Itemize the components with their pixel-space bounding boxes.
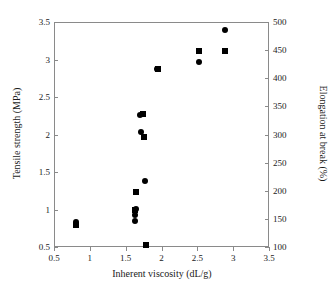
bottom-tick-label: 2 xyxy=(159,254,164,263)
right-tick-label: 300 xyxy=(273,130,303,139)
left-tick-mark xyxy=(54,60,58,61)
bottom-tick-label: 3.5 xyxy=(263,254,274,263)
right-tick-mark xyxy=(265,78,269,79)
left-tick-label: 1.5 xyxy=(14,168,50,177)
bottom-tick-mark xyxy=(233,247,234,251)
right-tick-label: 500 xyxy=(273,18,303,27)
right-tick-mark xyxy=(265,135,269,136)
left-tick-label: 3 xyxy=(14,55,50,64)
x-axis-label: Inherent viscosity (dL/g) xyxy=(0,268,324,279)
left-tick-mark xyxy=(54,210,58,211)
bottom-tick-mark xyxy=(90,247,91,251)
bottom-tick-label: 3 xyxy=(231,254,236,263)
right-tick-label: 100 xyxy=(273,243,303,252)
right-tick-label: 150 xyxy=(273,214,303,223)
right-tick-label: 200 xyxy=(273,186,303,195)
bottom-tick-mark xyxy=(197,247,198,251)
left-tick-label: 2 xyxy=(14,130,50,139)
plot-area-frame xyxy=(54,22,269,247)
right-tick-mark xyxy=(265,106,269,107)
left-tick-mark xyxy=(54,97,58,98)
right-tick-label: 250 xyxy=(273,158,303,167)
left-tick-label: 3.5 xyxy=(14,18,50,27)
bottom-tick-mark xyxy=(54,247,55,251)
right-tick-mark xyxy=(265,191,269,192)
right-tick-mark xyxy=(265,163,269,164)
left-tick-mark xyxy=(54,135,58,136)
right-tick-label: 400 xyxy=(273,74,303,83)
right-tick-mark xyxy=(265,50,269,51)
right-tick-mark xyxy=(265,219,269,220)
bottom-tick-mark xyxy=(126,247,127,251)
bottom-tick-label: 2.5 xyxy=(192,254,203,263)
right-tick-mark xyxy=(265,22,269,23)
left-tick-mark xyxy=(54,172,58,173)
left-tick-label: 2.5 xyxy=(14,93,50,102)
left-tick-label: 1 xyxy=(14,205,50,214)
secondary-y-axis-label: Elongation at break (%) xyxy=(318,39,329,229)
right-tick-label: 450 xyxy=(273,46,303,55)
left-tick-mark xyxy=(54,22,58,23)
bottom-tick-label: 0.5 xyxy=(48,254,59,263)
bottom-tick-mark xyxy=(269,247,270,251)
right-tick-label: 350 xyxy=(273,102,303,111)
bottom-tick-mark xyxy=(162,247,163,251)
left-tick-label: 0.5 xyxy=(14,243,50,252)
bottom-tick-label: 1 xyxy=(88,254,93,263)
bottom-tick-label: 1.5 xyxy=(120,254,131,263)
